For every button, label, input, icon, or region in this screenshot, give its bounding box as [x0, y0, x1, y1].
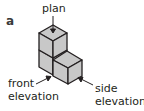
- front-elevation-arrow: [36, 78, 48, 84]
- front-arrowhead-icon: [46, 76, 51, 81]
- side-elevation-label-line1: side: [95, 83, 118, 95]
- side-elevation-label-line2: elevation: [95, 96, 144, 108]
- side-elevation-arrow: [81, 79, 93, 85]
- side-arrowhead-icon: [78, 77, 83, 82]
- front-elevation-label-line1: front: [8, 78, 34, 90]
- front-elevation-label-line2: elevation: [8, 91, 59, 103]
